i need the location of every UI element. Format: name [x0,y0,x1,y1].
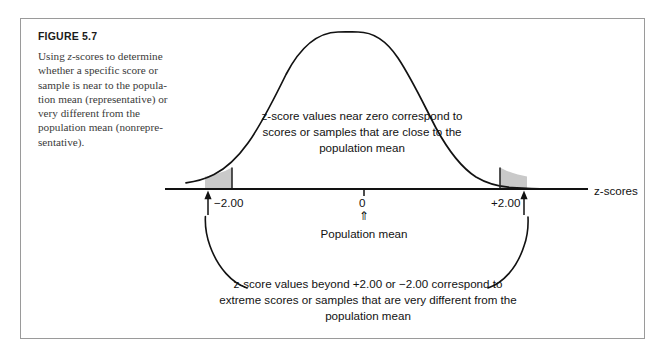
up-arrow-icon: ⇑ [359,210,369,222]
center-annotation-text: z-score values near zero correspond to s… [247,108,477,157]
axis-tick-label-positive-two: +2.00 [491,196,520,209]
right-marker-arrow-head [520,191,527,200]
right-tail-shaded-region [500,168,527,189]
figure-caption-body: Using z-scores to determine whether a sp… [38,49,178,149]
population-mean-label: Population mean [320,227,407,240]
axis-tick-label-zero: 0 [359,196,365,209]
left-tail-shaded-region [205,168,232,189]
figure-caption: FIGURE 5.7 Using z-scores to determine w… [38,30,178,149]
bottom-annotation-text: z-score values beyond +2.00 or −2.00 cor… [218,276,518,325]
axis-tick-label-negative-two: −2.00 [214,196,243,209]
figure-page: FIGURE 5.7 Using z-scores to determine w… [0,0,666,360]
figure-caption-title: FIGURE 5.7 [38,30,178,42]
x-axis-label: z-scores [594,184,638,197]
caption-text-rest: -scores to determine whether a specific … [38,50,168,148]
left-marker-arrow-head [204,191,211,200]
caption-text-lead: Using [38,50,68,62]
